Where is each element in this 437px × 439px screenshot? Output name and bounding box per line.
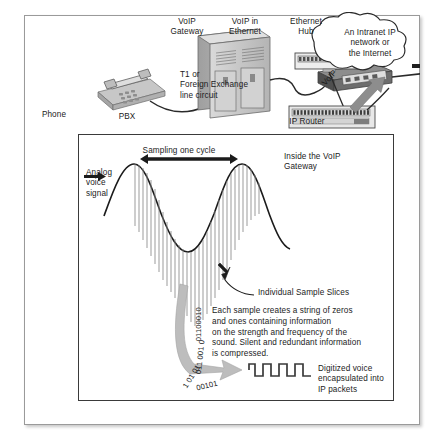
label-internet-cloud: An Intranet IP network or the Internet [322, 28, 418, 59]
label-sampling-one-cycle: Sampling one cycle [124, 146, 234, 156]
label-inside-gateway: Inside the VoIP Gateway [284, 152, 341, 173]
explanation-paragraph: Each sample creates a string of zeros an… [212, 306, 361, 360]
digital-square-wave [249, 364, 311, 376]
sampling-waveform-artwork [78, 134, 394, 401]
label-phone: Phone [30, 110, 78, 120]
label-analog-voice-signal: Analog voice signal [86, 168, 112, 199]
voip-diagram-page: Phone PBX VoIP Gateway T1 or Foreign Exc… [0, 0, 437, 439]
label-trunk-circuit: T1 or Foreign Exchange line circuit [180, 70, 248, 101]
label-voip-in-ethernet: VoIP in Ethernet [218, 17, 272, 38]
label-voip-gateway: VoIP Gateway [160, 17, 214, 38]
label-pbx: PBX [105, 112, 149, 122]
label-individual-sample-slices: Individual Sample Slices [258, 288, 349, 298]
label-ip-router: IP Router [278, 117, 336, 127]
label-digitized-voice: Digitized voice encapsulated into IP pac… [318, 364, 384, 395]
